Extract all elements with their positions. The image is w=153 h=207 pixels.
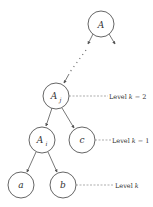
node-label: c	[79, 135, 84, 145]
level-label-k-minus-1: Level k − 1	[112, 137, 150, 145]
node-Ai: A i	[29, 127, 55, 153]
tree-diagram: A A j A i c a b Level k − 2 Level k − 1 …	[0, 0, 153, 207]
edge-a-left-stub	[88, 34, 93, 44]
edge-into-aj	[64, 74, 69, 83]
edge-ai-a	[27, 152, 36, 172]
level-label-k-minus-2: Level k − 2	[109, 93, 147, 101]
node-label: b	[60, 180, 66, 190]
node-c: c	[69, 127, 95, 153]
node-a: a	[8, 172, 34, 198]
dotted-path-ellipsis	[70, 50, 86, 72]
edge-a-right-stub	[109, 34, 115, 44]
node-b: b	[50, 172, 76, 198]
node-A: A	[88, 11, 114, 37]
node-label: A	[50, 91, 58, 101]
node-label: a	[18, 180, 23, 190]
level-label-k: Level k	[115, 182, 139, 190]
node-label: A	[97, 20, 105, 30]
node-Aj: A j	[43, 83, 69, 109]
edge-ai-b	[48, 152, 57, 172]
edge-aj-ai	[46, 108, 52, 126]
node-label: A	[36, 135, 44, 145]
edge-aj-c	[62, 108, 74, 128]
node-subscript: i	[46, 140, 48, 147]
